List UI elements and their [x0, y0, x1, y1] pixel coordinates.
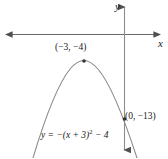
equation-lhs: y = −(x + 3) — [41, 130, 89, 140]
vertex-point-marker — [82, 59, 86, 63]
x-axis-label: x — [158, 38, 163, 49]
parabola-curve — [33, 61, 137, 159]
equation-label: y = −(x + 3)2 − 4 — [41, 129, 108, 141]
parabola-graph-figure: y x (−3, −4) (0, −13) y = −(x + 3)2 − 4 — [0, 0, 168, 158]
y-intercept-coordinate-label: (0, −13) — [125, 112, 156, 122]
y-axis-label: y — [115, 1, 120, 12]
vertex-coordinate-label: (−3, −4) — [55, 43, 86, 53]
equation-rhs: − 4 — [93, 130, 109, 140]
